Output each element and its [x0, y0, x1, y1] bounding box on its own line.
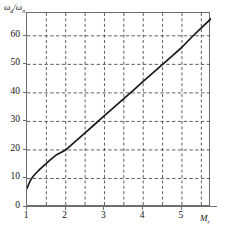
y-tick-label: 0: [0, 201, 20, 211]
y-tick-label: 10: [0, 172, 20, 182]
y-tick-mark: [23, 177, 26, 178]
x-axis-label-m: M: [200, 213, 208, 223]
x-tick-label: 1: [19, 211, 33, 221]
x-tick-mark: [142, 206, 143, 210]
y-tick-label: 50: [0, 58, 20, 68]
y-tick-mark: [23, 35, 26, 36]
x-tick-mark: [65, 206, 66, 210]
plot-canvas: [27, 13, 211, 207]
y-tick-label: 30: [0, 115, 20, 125]
y-tick-label: 40: [0, 87, 20, 97]
y-axis-label-sub-n: n: [22, 8, 25, 14]
y-tick-label: 20: [0, 144, 20, 154]
x-axis-line: [26, 206, 217, 207]
y-axis-label: ωd/ωn: [4, 3, 25, 14]
x-tick-mark: [181, 206, 182, 210]
chart-figure: ωd/ωn Mr 0102030405060 12345: [0, 0, 230, 235]
x-tick-mark: [26, 206, 27, 210]
data-curve: [27, 19, 211, 189]
x-tick-label: 3: [96, 211, 110, 221]
x-axis-label: Mr: [200, 214, 210, 225]
plot-area: [26, 12, 210, 206]
y-tick-mark: [23, 92, 26, 93]
x-tick-mark: [103, 206, 104, 210]
x-tick-label: 5: [174, 211, 188, 221]
y-tick-mark: [23, 63, 26, 64]
x-tick-label: 4: [135, 211, 149, 221]
y-tick-mark: [23, 120, 26, 121]
x-tick-label: 2: [58, 211, 72, 221]
y-tick-mark: [23, 149, 26, 150]
y-axis-label-slash-omega: /ω: [13, 2, 22, 12]
y-tick-label: 60: [0, 30, 20, 40]
x-axis-label-sub-r: r: [208, 219, 210, 225]
